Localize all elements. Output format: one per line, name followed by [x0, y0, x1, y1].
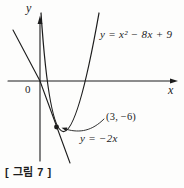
tangent-line	[13, 30, 70, 163]
parabola-curve	[41, 13, 99, 132]
tangent-point-label: (3, −6)	[106, 111, 136, 123]
math-figure: y x 0 y = x² − 8x + 9 (3, −6) y = −2x [ …	[0, 0, 184, 188]
tangent-point-dot	[54, 125, 59, 130]
figure-caption: [ 그림 7 ]	[5, 166, 52, 178]
y-axis-label: y	[26, 2, 31, 15]
line-equation-label: y = −2x	[80, 132, 118, 144]
x-axis-label: x	[168, 84, 173, 97]
origin-label: 0	[25, 83, 31, 95]
parabola-equation-label: y = x² − 8x + 9	[100, 28, 172, 40]
